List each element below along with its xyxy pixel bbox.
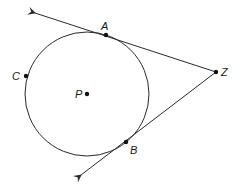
geometry-diagram: A B C P Z — [0, 0, 240, 189]
label-c: C — [12, 70, 20, 82]
label-p: P — [75, 88, 83, 100]
point-b — [124, 140, 128, 144]
point-p — [85, 92, 89, 96]
label-z: Z — [220, 66, 229, 78]
tangent-ray-za — [35, 13, 216, 72]
label-b: B — [130, 144, 137, 156]
point-z — [214, 70, 218, 74]
label-a: A — [100, 20, 108, 32]
point-c — [24, 74, 28, 78]
point-a — [104, 33, 108, 37]
